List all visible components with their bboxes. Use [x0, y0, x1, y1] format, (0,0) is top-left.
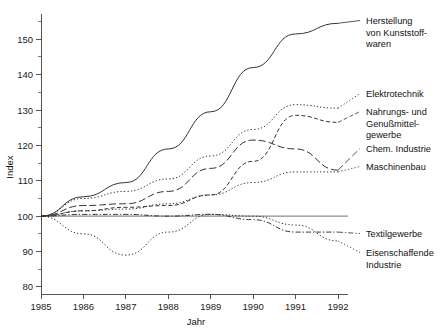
- series-label-legend: Herstellungvon Kunststoff-warenElektrote…: [365, 16, 434, 270]
- legend-label-line: Genußmittel-: [366, 119, 419, 129]
- series-line: [41, 214, 338, 255]
- series-line: [41, 23, 338, 216]
- legend-leader-line: [338, 21, 360, 24]
- y-tick-label: 90: [22, 246, 33, 257]
- y-tick-label: 130: [17, 105, 33, 116]
- legend-leader-line: [338, 241, 360, 253]
- legend-entry: Textilgewerbe: [366, 229, 422, 239]
- x-tick-label: 1989: [200, 301, 221, 312]
- y-tick-label: 120: [17, 140, 33, 151]
- leader-lines-layer: [338, 21, 360, 253]
- y-tick-label: 80: [22, 281, 33, 292]
- legend-entry: EisenschaffendeIndustrie: [366, 248, 434, 270]
- legend-label-line: waren: [365, 39, 391, 49]
- legend-leader-line: [338, 94, 360, 109]
- x-tick-label: 1990: [243, 301, 264, 312]
- legend-label-line: Elektrotechnik: [366, 89, 424, 99]
- y-tick-label: 140: [17, 69, 33, 80]
- y-tick-label: 150: [17, 34, 33, 45]
- legend-label-line: Herstellung: [366, 16, 412, 26]
- axes-layer: [36, 14, 348, 299]
- line-chart: 1501401301201101009080 19851986198719881…: [0, 0, 447, 333]
- x-axis-title: Jahr: [187, 316, 205, 327]
- legend-label-line: Maschinenbau: [366, 162, 426, 172]
- y-tick-label: 100: [17, 211, 33, 222]
- legend-entry: Chem. Industrie: [366, 144, 431, 154]
- legend-entry: Herstellungvon Kunststoff-waren: [365, 16, 427, 49]
- legend-leader-line: [338, 112, 360, 123]
- legend-label-line: Nahrungs- und: [366, 107, 427, 117]
- legend-label-line: Chem. Industrie: [366, 144, 431, 154]
- legend-leader-line: [338, 232, 360, 233]
- legend-entry: Nahrungs- undGenußmittel-gewerbe: [366, 107, 427, 140]
- legend-label-line: Industrie: [366, 260, 401, 270]
- x-axis-tick-labels: 19851986198719881989199019911992: [30, 301, 348, 312]
- chart-canvas: 1501401301201101009080 19851986198719881…: [0, 0, 447, 333]
- series-line: [41, 140, 338, 216]
- x-tick-label: 1985: [30, 301, 51, 312]
- x-tick-label: 1987: [115, 301, 136, 312]
- legend-entry: Elektrotechnik: [366, 89, 424, 99]
- y-tick-label: 110: [18, 175, 33, 186]
- series-layer: [41, 23, 338, 255]
- y-axis-tick-labels: 1501401301201101009080: [17, 34, 33, 293]
- legend-label-line: gewerbe: [366, 130, 401, 140]
- legend-label-line: Eisenschaffende: [366, 248, 434, 258]
- x-tick-label: 1986: [73, 301, 94, 312]
- legend-leader-line: [338, 149, 360, 171]
- series-line: [41, 172, 338, 216]
- y-axis-title: Index: [4, 155, 15, 178]
- legend-label-line: Textilgewerbe: [366, 229, 422, 239]
- series-line: [41, 214, 338, 232]
- x-tick-label: 1988: [158, 301, 179, 312]
- legend-entry: Maschinenbau: [366, 162, 426, 172]
- x-tick-label: 1992: [327, 301, 348, 312]
- legend-label-line: von Kunststoff-: [366, 28, 427, 38]
- x-tick-label: 1991: [285, 301, 306, 312]
